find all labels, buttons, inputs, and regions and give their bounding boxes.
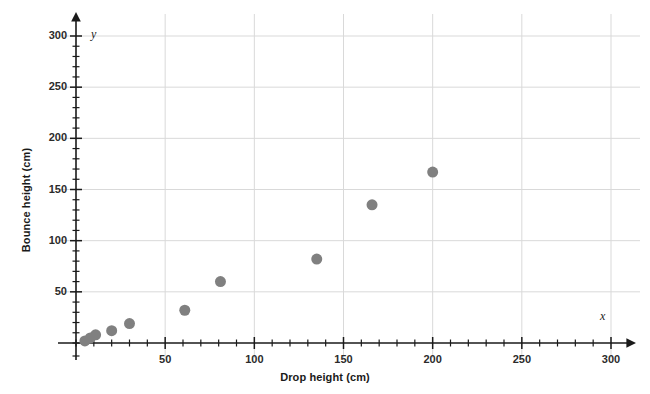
x-axis-title: Drop height (cm) (0, 371, 650, 383)
data-point (215, 276, 226, 287)
data-point (90, 329, 101, 340)
axis-ticks (70, 36, 611, 356)
data-points (79, 167, 438, 347)
y-tick-label: 250 (31, 80, 67, 92)
scatter-plot-figure: Drop height (cm) Bounce height (cm) 5010… (0, 0, 650, 394)
data-point (427, 167, 438, 178)
x-variable-label: x (600, 309, 605, 324)
x-tick-label: 150 (324, 353, 364, 365)
data-point (311, 254, 322, 265)
y-axis-title: Bounce height (cm) (20, 90, 32, 310)
y-variable-label: y (91, 27, 96, 42)
data-point (367, 199, 378, 210)
x-tick-label: 50 (145, 353, 185, 365)
x-tick-label: 100 (234, 353, 274, 365)
data-point (124, 318, 135, 329)
y-tick-label: 150 (31, 183, 67, 195)
y-tick-label: 100 (31, 234, 67, 246)
grid-lines (60, 14, 640, 358)
x-tick-label: 250 (502, 353, 542, 365)
data-point (106, 325, 117, 336)
y-tick-label: 300 (31, 29, 67, 41)
x-tick-label: 300 (591, 353, 631, 365)
y-tick-label: 50 (31, 285, 67, 297)
x-tick-label: 200 (413, 353, 453, 365)
chart-canvas (0, 0, 650, 394)
data-point (179, 305, 190, 316)
y-tick-label: 200 (31, 131, 67, 143)
